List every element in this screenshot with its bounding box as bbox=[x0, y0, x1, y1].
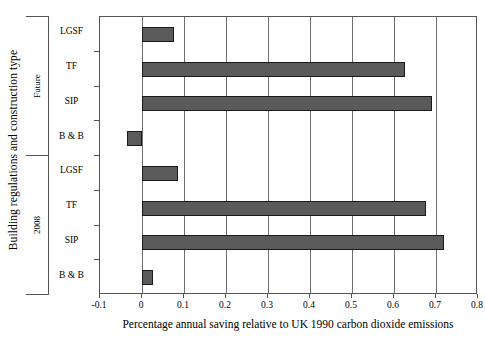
x-axis-tick-label: 0.3 bbox=[261, 300, 273, 310]
x-axis-tick-mark bbox=[477, 294, 478, 298]
x-axis-tick-mark bbox=[225, 294, 226, 298]
y-axis-category-label: B & B bbox=[48, 131, 95, 141]
x-axis-tick-label: -0.1 bbox=[91, 300, 106, 310]
y-axis-group-label-text: Future bbox=[32, 74, 42, 98]
y-axis-category-label: TF bbox=[48, 61, 95, 71]
x-axis-tick-label: 0.8 bbox=[471, 300, 483, 310]
gridline bbox=[310, 17, 311, 293]
bar bbox=[142, 62, 405, 77]
x-axis-tick-mark bbox=[267, 294, 268, 298]
y-axis-title-text: Building regulations and construction ty… bbox=[7, 50, 19, 250]
bar bbox=[142, 201, 426, 216]
y-axis-category-label: SIP bbox=[48, 235, 95, 245]
y-axis-title: Building regulations and construction ty… bbox=[0, 0, 26, 300]
gridline bbox=[142, 17, 143, 293]
gridline bbox=[184, 17, 185, 293]
y-axis-group-label-text: 2008 bbox=[32, 216, 42, 234]
y-axis-category-label: SIP bbox=[48, 96, 95, 106]
x-axis-tick-label: 0.6 bbox=[387, 300, 399, 310]
bar bbox=[142, 96, 432, 111]
x-axis-tick-mark bbox=[183, 294, 184, 298]
bar bbox=[142, 166, 178, 181]
group-axis-bottom-cap bbox=[26, 294, 49, 295]
gridline bbox=[394, 17, 395, 293]
plot-area bbox=[99, 16, 477, 294]
y-axis-group-label: Future bbox=[26, 16, 48, 155]
y-axis-category-label: TF bbox=[48, 200, 95, 210]
bar bbox=[127, 131, 142, 146]
x-axis-tick-mark bbox=[393, 294, 394, 298]
x-axis-tick-mark bbox=[351, 294, 352, 298]
y-axis-category-label: B & B bbox=[48, 270, 95, 280]
x-axis-tick-mark bbox=[141, 294, 142, 298]
gridline bbox=[352, 17, 353, 293]
gridline bbox=[436, 17, 437, 293]
y-axis-group-label: 2008 bbox=[26, 155, 48, 294]
x-axis-tick-label: 0.5 bbox=[345, 300, 357, 310]
x-axis-tick-mark bbox=[435, 294, 436, 298]
x-axis-tick-label: 0 bbox=[139, 300, 144, 310]
y-axis-category-label: LGSF bbox=[48, 26, 95, 36]
gridline bbox=[268, 17, 269, 293]
bar bbox=[142, 235, 444, 250]
gridline bbox=[226, 17, 227, 293]
x-axis-tick-label: 0.4 bbox=[303, 300, 315, 310]
y-axis-category-label: LGSF bbox=[48, 165, 95, 175]
x-axis-tick-label: 0.7 bbox=[429, 300, 441, 310]
x-axis-tick-label: 0.2 bbox=[219, 300, 231, 310]
bar-chart-figure: Building regulations and construction ty… bbox=[0, 0, 485, 345]
x-axis-tick-mark bbox=[99, 294, 100, 298]
x-axis-tick-mark bbox=[309, 294, 310, 298]
x-axis-tick-label: 0.1 bbox=[177, 300, 189, 310]
bar bbox=[142, 27, 174, 42]
x-axis-title: Percentage annual saving relative to UK … bbox=[99, 318, 477, 330]
bar bbox=[142, 270, 153, 285]
